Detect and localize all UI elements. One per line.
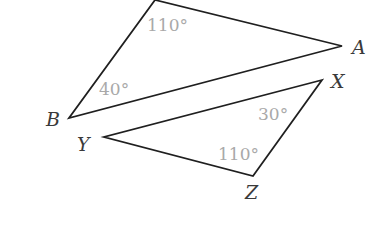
- angle-label-b-40: 40°: [99, 79, 129, 99]
- vertex-label-b: B: [45, 108, 60, 130]
- similar-triangles-diagram: A B 110° 40° X Y Z 30° 110°: [0, 0, 388, 239]
- triangle-abc-outline: [69, 0, 342, 118]
- angle-label-z-110: 110°: [218, 144, 259, 164]
- angle-label-x-30: 30°: [258, 104, 288, 124]
- vertex-label-x: X: [329, 70, 346, 92]
- triangle-xyz-outline: [104, 80, 322, 176]
- angle-label-top-110: 110°: [147, 15, 188, 35]
- vertex-label-y: Y: [77, 133, 92, 155]
- vertex-label-z: Z: [244, 181, 259, 203]
- vertex-label-a: A: [350, 36, 366, 58]
